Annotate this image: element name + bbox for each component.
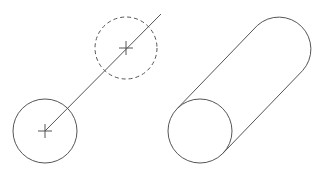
cylinder-body-outline (177, 17, 310, 153)
diagram-canvas (0, 0, 327, 180)
sweep-path-figure (13, 14, 161, 163)
cylinder-figure (168, 17, 311, 163)
end-center-cross-icon (119, 41, 133, 55)
sweep-path-line (45, 14, 161, 131)
